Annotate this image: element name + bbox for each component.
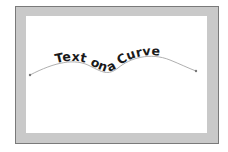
curve-text-label: Text on a Curve bbox=[53, 43, 160, 74]
curve-artwork[interactable]: Text on a Curve bbox=[0, 0, 228, 152]
path-start-anchor[interactable] bbox=[29, 74, 31, 76]
path-end-anchor[interactable] bbox=[195, 70, 197, 72]
curve-text[interactable]: Text on a Curve bbox=[53, 43, 160, 74]
